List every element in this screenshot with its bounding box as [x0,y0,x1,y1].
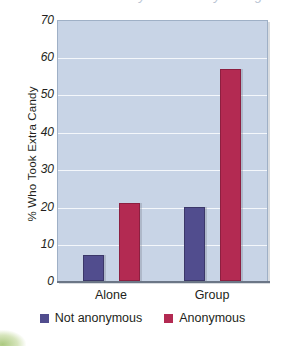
bar-group-anonymous [220,69,241,281]
x-tick-group: Group [195,288,230,302]
legend-swatch-icon-anonymous [164,314,173,323]
y-tick-70: 70 [18,13,54,27]
gridline-60 [58,58,267,59]
x-tick-alone: Alone [95,288,127,302]
chart-legend: Not anonymous Anonymous [0,311,285,325]
x-axis-line [57,281,270,283]
y-tick-60: 60 [18,50,54,64]
y-axis-tick-labels: 70 60 50 40 30 20 10 0 [12,0,54,346]
bar-alone-not-anonymous [83,255,104,281]
y-tick-10: 10 [18,237,54,251]
bar-group-not-anonymous [184,207,205,281]
legend-swatch-icon-not-anonymous [40,314,49,323]
legend-item-not-anonymous: Not anonymous [40,311,143,325]
plot-inner [58,21,267,281]
bar-chart: % Who Took Extra Candy 70 60 50 40 30 20… [0,0,285,346]
y-tick-30: 30 [18,162,54,176]
bar-alone-anonymous [119,203,140,281]
y-tick-50: 50 [18,87,54,101]
legend-item-anonymous: Anonymous [164,311,245,325]
y-tick-20: 20 [18,200,54,214]
legend-label-anonymous: Anonymous [179,311,245,325]
y-tick-40: 40 [18,125,54,139]
legend-label-not-anonymous: Not anonymous [55,311,143,325]
y-tick-0: 0 [18,274,54,288]
plot-area [57,20,268,282]
